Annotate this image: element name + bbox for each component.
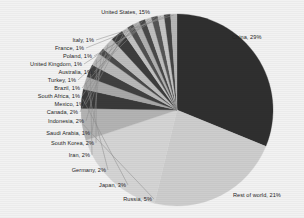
pie-slice-label: Brazil, 1%: [54, 85, 80, 91]
pie-slice-label: Iran, 2%: [69, 152, 90, 158]
pie-chart: China, 29%Rest of world, 21%United State…: [0, 0, 304, 218]
pie-slices: [81, 14, 273, 206]
pie-slice-label: Japan, 3%: [99, 182, 126, 188]
pie-chart-canvas: [0, 0, 304, 218]
pie-slice-label: Poland, 1%: [63, 53, 92, 59]
pie-slice-label: China, 29%: [232, 34, 261, 40]
pie-slice-label: South Africa, 1%: [38, 93, 80, 99]
pie-slice-label: United States, 15%: [101, 9, 150, 15]
pie-slice-label: Mexico, 1%: [55, 101, 84, 107]
pie-slice-label: United Kingdom, 1%: [30, 61, 82, 67]
pie-slice-label: Canada, 2%: [47, 109, 78, 115]
pie-slice-label: Italy, 1%: [73, 37, 95, 43]
pie-slice-label: France, 1%: [55, 45, 84, 51]
pie-slice-label: Russia, 5%: [123, 196, 152, 202]
pie-slice-label: Turkey, 1%: [48, 77, 76, 83]
pie-slice-label: Australia, 1%: [58, 69, 92, 75]
pie-slice-label: Rest of world, 21%: [233, 192, 281, 198]
pie-slice-label: Saudi Arabia, 1%: [46, 130, 90, 136]
pie-slice-label: Germany, 2%: [72, 167, 106, 173]
pie-slice-label: Indonesia, 2%: [48, 118, 84, 124]
pie-slice-label: South Korea, 2%: [51, 140, 94, 146]
